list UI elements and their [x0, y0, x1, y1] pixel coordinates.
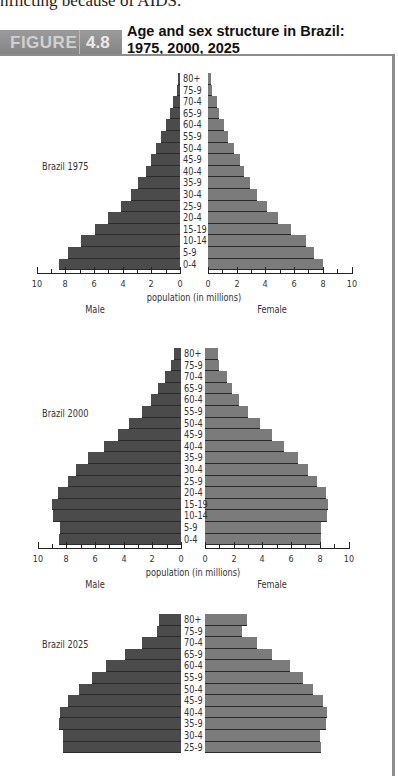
- age-row: 70-4: [0, 371, 398, 383]
- male-bar: [146, 166, 180, 178]
- female-bar: [208, 166, 244, 178]
- axis-tick: [277, 544, 278, 549]
- male-bar: [156, 143, 180, 155]
- axis-tick: [219, 544, 220, 549]
- age-group-label: 65-9: [183, 108, 202, 120]
- male-tick-label: 8: [59, 553, 73, 564]
- x-axis-title: population (in millions): [136, 567, 251, 578]
- axis-tick: [291, 542, 292, 549]
- female-label: Female: [247, 304, 296, 315]
- age-row: 45-9: [0, 695, 398, 707]
- female-bar: [205, 707, 327, 719]
- age-group-label: 20-4: [184, 487, 203, 499]
- axis-tick: [109, 544, 110, 549]
- female-bar: [208, 177, 250, 189]
- age-group-label: 0-4: [183, 259, 196, 271]
- age-group-label: 35-9: [184, 718, 203, 730]
- age-row: 40-4: [0, 707, 398, 719]
- age-row: 25-9: [0, 742, 398, 754]
- age-group-label: 60-4: [184, 660, 203, 672]
- axis-tick: [294, 267, 295, 274]
- male-bar: [142, 406, 181, 418]
- age-row: 25-9: [0, 476, 398, 488]
- age-row: 40-4: [0, 441, 398, 453]
- male-bar: [92, 672, 181, 684]
- axis-tick: [152, 542, 153, 549]
- age-group-label: 60-4: [183, 119, 202, 131]
- female-tick-label: 4: [259, 278, 273, 289]
- female-label: Female: [247, 579, 296, 590]
- female-bar: [208, 247, 314, 259]
- female-bar: [205, 371, 227, 383]
- age-row: 75-9: [0, 626, 398, 638]
- axis-tick: [222, 269, 223, 274]
- female-bar: [208, 154, 240, 166]
- figure-tab: FIGURE 4.8: [0, 30, 122, 54]
- female-bar: [205, 406, 248, 418]
- male-tick-label: 0: [174, 553, 188, 564]
- age-group-label: 10-14: [184, 510, 208, 522]
- male-bar: [125, 649, 181, 661]
- axis-tick: [323, 267, 324, 274]
- axis-tick: [308, 269, 309, 274]
- female-bar: [205, 718, 326, 730]
- female-bar: [205, 695, 323, 707]
- male-tick-label: 2: [145, 553, 159, 564]
- male-bar: [52, 499, 181, 511]
- age-row: 60-4: [0, 394, 398, 406]
- female-tick-label: 0: [201, 278, 215, 289]
- female-bar: [205, 742, 321, 754]
- male-bar: [159, 614, 181, 626]
- age-row: 80+: [0, 614, 398, 626]
- female-bar: [205, 452, 298, 464]
- age-row: 35-9: [0, 718, 398, 730]
- axis-tick: [251, 269, 252, 274]
- age-row: 20-4: [0, 487, 398, 499]
- axis-tick: [337, 269, 338, 274]
- age-group-label: 35-9: [184, 452, 203, 464]
- age-row: 80+: [0, 348, 398, 360]
- age-row: 10-14: [0, 235, 398, 247]
- male-bar: [142, 637, 181, 649]
- female-bar: [205, 672, 303, 684]
- age-row: 50-4: [0, 684, 398, 696]
- figure-title: Age and sex structure in Brazil: 1975, 2…: [127, 23, 397, 57]
- male-bar: [104, 441, 181, 453]
- male-bar: [178, 73, 180, 85]
- female-bar: [205, 522, 321, 534]
- male-bar: [170, 108, 180, 120]
- axis-tick: [262, 542, 263, 549]
- axis-tick: [305, 544, 306, 549]
- age-row: 35-9: [0, 452, 398, 464]
- female-bar: [208, 235, 306, 247]
- male-bar: [174, 348, 181, 360]
- age-group-label: 75-9: [184, 360, 203, 372]
- figure-number: 4.8: [86, 33, 110, 53]
- age-group-label: 45-9: [183, 154, 202, 166]
- age-row: 75-9: [0, 360, 398, 372]
- female-bar: [205, 348, 218, 360]
- female-tick-label: 8: [316, 278, 330, 289]
- axis-tick: [166, 269, 167, 274]
- age-group-label: 65-9: [184, 649, 203, 661]
- age-group-label: 25-9: [184, 476, 203, 488]
- age-group-label: 15-19: [183, 224, 207, 236]
- age-row: 65-9: [0, 649, 398, 661]
- male-bar: [131, 189, 180, 201]
- age-group-label: 80+: [184, 614, 201, 626]
- male-tick-label: 4: [117, 553, 131, 564]
- male-tick-label: 4: [116, 278, 130, 289]
- age-row: 45-9: [0, 154, 398, 166]
- age-row: 40-4: [0, 166, 398, 178]
- male-bar: [158, 383, 181, 395]
- age-group-label: 25-9: [184, 742, 203, 754]
- age-group-label: 70-4: [184, 371, 203, 383]
- male-bar: [106, 660, 181, 672]
- axis-tick: [124, 542, 125, 549]
- axis-tick: [237, 267, 238, 274]
- axis-tick: [265, 267, 266, 274]
- age-group-label: 50-4: [183, 143, 202, 155]
- figure-tab-word: FIGURE: [10, 33, 77, 53]
- female-bar: [205, 660, 290, 672]
- male-label: Male: [70, 304, 119, 315]
